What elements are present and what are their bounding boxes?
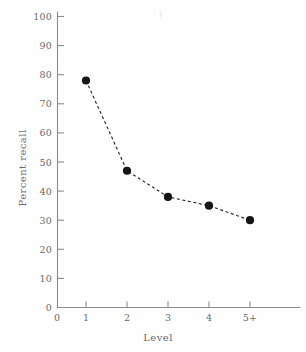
x-tick-label-3: 3 — [165, 312, 171, 323]
x-tick-label-5: 5+ — [243, 312, 257, 323]
y-tick-label-40: 40 — [40, 186, 53, 197]
y-axis: 100 90 80 70 60 50 40 30 20 10 0 Percent… — [17, 11, 64, 313]
data-series-percent-recall — [82, 76, 254, 224]
y-tick-label-50: 50 — [40, 157, 53, 168]
x-tick-label-1: 1 — [83, 312, 89, 323]
y-tick-label-80: 80 — [40, 69, 53, 80]
y-tick-label-100: 100 — [33, 11, 52, 22]
series-marker-group — [82, 76, 254, 224]
x-tick-label-0: 0 — [54, 312, 60, 323]
line-chart-plot: 100 90 80 70 60 50 40 30 20 10 0 Percent… — [0, 0, 306, 352]
x-tick-label-2: 2 — [124, 312, 130, 323]
data-point-marker — [205, 202, 213, 210]
y-tick-label-10: 10 — [40, 273, 53, 284]
data-point-marker — [246, 216, 254, 224]
y-tick-label-30: 30 — [40, 215, 53, 226]
y-axis-title: Percent recall — [17, 129, 28, 206]
x-tick-label-4: 4 — [206, 312, 212, 323]
y-tick-label-90: 90 — [40, 40, 53, 51]
y-tick-label-0: 0 — [46, 302, 52, 313]
x-axis-title: Level — [143, 332, 173, 343]
data-point-marker — [123, 167, 131, 175]
data-point-marker — [82, 76, 90, 84]
y-tick-label-60: 60 — [40, 127, 53, 138]
x-axis: 0 1 2 3 4 5+ Level — [54, 302, 300, 344]
y-tick-label-20: 20 — [40, 244, 53, 255]
y-tick-label-70: 70 — [40, 98, 53, 109]
chart-figure: ( 100 90 80 70 60 50 40 30 20 10 0 Per — [0, 0, 306, 352]
data-point-marker — [164, 193, 172, 201]
